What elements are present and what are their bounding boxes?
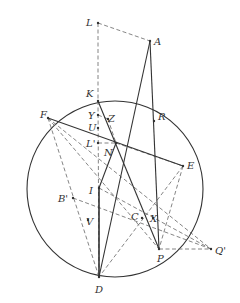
label-E: E — [186, 160, 195, 171]
point-N — [115, 142, 117, 144]
label-K: K — [85, 88, 94, 99]
label-L': L' — [85, 138, 95, 149]
dashed-segment-B'-Q' — [73, 198, 211, 249]
label-Z: Z — [107, 113, 116, 124]
label-P: P — [156, 253, 164, 264]
point-U — [97, 127, 99, 129]
point-L' — [97, 142, 99, 144]
label-R: R — [157, 111, 166, 122]
label-Y: Y — [88, 110, 96, 121]
dashed-segment-Y-Z — [98, 115, 108, 119]
point-Y — [97, 114, 99, 116]
point-Q' — [210, 248, 212, 250]
point-B' — [72, 197, 74, 199]
point-F — [47, 117, 49, 119]
point-C — [141, 217, 143, 219]
dashed-segment-L-A — [98, 23, 150, 41]
label-B': B' — [57, 193, 68, 204]
dashed-segment-E-D — [99, 166, 183, 277]
label-Q': Q' — [215, 245, 226, 256]
label-N: N — [103, 147, 114, 158]
label-X: X — [149, 213, 158, 224]
point-L — [97, 22, 99, 24]
point-R — [153, 120, 155, 122]
circumcircle — [27, 101, 203, 277]
point-A — [149, 40, 151, 42]
point-I — [98, 187, 100, 189]
dashed-lines — [48, 23, 211, 277]
label-I: I — [88, 185, 94, 196]
solid-lines — [48, 41, 183, 277]
point-E — [182, 165, 184, 167]
dashed-segment-E-P — [159, 166, 183, 249]
circle — [27, 101, 203, 277]
point-P — [158, 248, 160, 250]
label-V: V — [86, 216, 95, 227]
point-labels: LAKRFYZUL'NEIB'VCXDPQ' — [39, 17, 226, 295]
label-C: C — [131, 211, 139, 222]
label-D: D — [94, 284, 103, 295]
point-K — [97, 100, 99, 102]
label-U: U — [88, 122, 97, 133]
label-F: F — [39, 109, 48, 120]
point-D — [98, 276, 100, 278]
label-L: L — [85, 17, 93, 28]
geometry-figure: LAKRFYZUL'NEIB'VCXDPQ' — [0, 0, 240, 303]
solid-segment-A-D — [99, 41, 150, 277]
label-A: A — [153, 36, 161, 47]
